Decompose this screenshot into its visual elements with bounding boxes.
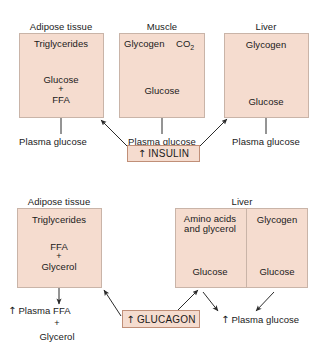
- glucagon-liver-output-plasma-glucose: ↑Plasma glucose: [221, 314, 299, 325]
- insulin-label: INSULIN: [148, 148, 189, 159]
- liver-amino-acids-line2: and glycerol: [184, 224, 236, 235]
- insulin-panel-header-liver: Liver: [256, 21, 277, 32]
- muscle-glycogen-label: Glycogen: [124, 38, 165, 49]
- adipose-plasma-glucose-input: Plasma glucose: [19, 136, 87, 147]
- liver-plasma-glucose-input: Plasma glucose: [232, 136, 300, 147]
- glucagon-label: GLUCAGON: [137, 314, 196, 325]
- plasma-ffa-increase-arrow-icon: ↑: [8, 305, 16, 316]
- insulin-panel-header-muscle: Muscle: [147, 21, 177, 32]
- insulin-panel-header-adipose: Adipose tissue: [30, 21, 93, 32]
- muscle-co2-label: CO2: [176, 38, 194, 53]
- muscle-co2-subscript: 2: [190, 44, 194, 51]
- plasma-glucose-text: Plasma glucose: [231, 314, 299, 325]
- glucagon-adipose-glycerol-label: Glycerol: [41, 261, 76, 272]
- muscle-co2-base: CO: [176, 38, 190, 49]
- glucagon-increase-arrow-icon: ↑: [126, 314, 135, 325]
- muscle-glucose-label: Glucose: [144, 85, 179, 96]
- liver-panel-divider: [246, 209, 247, 287]
- insulin-increase-arrow-icon: ↑: [138, 148, 147, 159]
- liver-glycogen-label: Glycogen: [246, 39, 287, 50]
- adipose-triglycerides-label: Triglycerides: [34, 38, 88, 49]
- glucagon-adipose-output-plus-sign: +: [54, 318, 59, 329]
- glucagon-panel-header-liver: Liver: [232, 196, 253, 207]
- liver-glucose-label: Glucose: [248, 96, 283, 107]
- liver-glycogenolysis-glucose-label: Glucose: [259, 266, 294, 277]
- adipose-ffa-label: FFA: [52, 94, 70, 105]
- glucagon-hormone-box[interactable]: ↑GLUCAGON: [122, 310, 200, 328]
- glucagon-panel-header-adipose: Adipose tissue: [28, 196, 91, 207]
- glucagon-adipose-output-plasma-ffa: ↑Plasma FFA: [8, 305, 71, 316]
- figure-canvas: Adipose tissue Triglycerides Glucose + F…: [0, 0, 321, 352]
- liver-glycogen-source-label: Glycogen: [257, 214, 298, 225]
- plasma-ffa-text: Plasma FFA: [18, 305, 70, 316]
- insulin-hormone-box[interactable]: ↑INSULIN: [127, 145, 200, 162]
- glucagon-adipose-triglycerides-label: Triglycerides: [32, 214, 86, 225]
- liver-gluconeogenesis-glucose-label: Glucose: [192, 266, 227, 277]
- glucagon-adipose-output-glycerol: Glycerol: [39, 331, 74, 342]
- plasma-glucose-increase-arrow-icon: ↑: [221, 314, 229, 325]
